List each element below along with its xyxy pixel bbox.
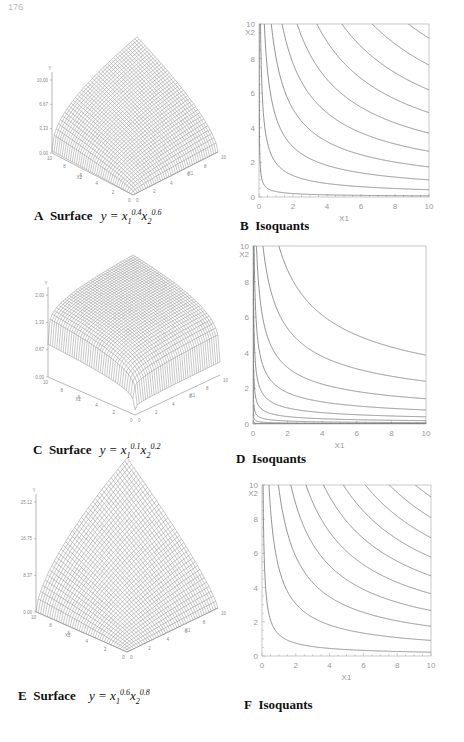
- svg-text:X1: X1: [190, 393, 196, 398]
- svg-text:10: 10: [221, 611, 227, 616]
- svg-text:6: 6: [361, 661, 366, 670]
- svg-text:10: 10: [221, 155, 227, 160]
- svg-text:X1: X1: [342, 673, 352, 682]
- svg-text:10: 10: [47, 156, 53, 161]
- caption-D: D Isoquants: [236, 451, 306, 467]
- svg-text:10: 10: [425, 202, 434, 211]
- isoquant-curve: [262, 0, 431, 594]
- surface-plot-E: 0.008.3716.7525.12Y00224466881010X1X2: [21, 458, 227, 660]
- svg-text:2: 2: [294, 661, 299, 670]
- svg-text:4: 4: [172, 402, 175, 407]
- svg-text:X2: X2: [65, 633, 71, 638]
- svg-text:10: 10: [31, 615, 37, 620]
- svg-text:0.67: 0.67: [35, 347, 44, 352]
- caption-E: E Surface y = x10.6x20.8: [18, 688, 150, 706]
- figure-canvas: 02468100246810X1X202468100246810X1X20246…: [0, 0, 464, 742]
- svg-text:2: 2: [285, 429, 290, 438]
- svg-text:4: 4: [327, 661, 332, 670]
- svg-text:2: 2: [113, 410, 116, 415]
- svg-text:0.00: 0.00: [35, 375, 44, 380]
- svg-text:8: 8: [395, 661, 400, 670]
- svg-text:X2: X2: [245, 28, 255, 37]
- svg-text:0: 0: [251, 429, 256, 438]
- caption-B: B Isoquants: [240, 218, 309, 234]
- svg-text:0: 0: [130, 655, 133, 660]
- surface-plot-C: 0.000.671.332.00Y00224466881010X1X2: [35, 255, 228, 423]
- svg-text:8: 8: [206, 386, 209, 391]
- isoquant-curve: [259, 0, 429, 90]
- isoquant-curve: [253, 103, 426, 417]
- svg-text:X1: X1: [339, 214, 349, 223]
- svg-text:0.00: 0.00: [39, 151, 48, 156]
- svg-text:1.33: 1.33: [35, 320, 44, 325]
- svg-text:4: 4: [320, 429, 325, 438]
- svg-text:X2: X2: [75, 397, 81, 402]
- svg-text:8: 8: [251, 55, 256, 64]
- svg-text:2: 2: [291, 202, 296, 211]
- svg-text:2: 2: [148, 646, 151, 651]
- svg-text:2: 2: [251, 158, 256, 167]
- svg-text:2.00: 2.00: [35, 293, 44, 298]
- svg-text:10: 10: [223, 378, 229, 383]
- equation-E: y = x10.6x20.8: [89, 688, 150, 703]
- svg-text:6: 6: [355, 429, 360, 438]
- svg-text:0: 0: [136, 198, 139, 203]
- svg-text:8: 8: [389, 429, 394, 438]
- svg-text:0: 0: [257, 202, 262, 211]
- svg-text:0: 0: [130, 418, 133, 423]
- svg-text:8: 8: [204, 164, 207, 169]
- svg-text:8.37: 8.37: [23, 573, 32, 578]
- svg-text:0: 0: [245, 420, 250, 429]
- svg-text:10.00: 10.00: [37, 78, 49, 83]
- isoquant-curve: [259, 0, 429, 151]
- svg-text:2: 2: [104, 647, 107, 652]
- isoquant-curve: [253, 275, 426, 420]
- svg-text:6: 6: [245, 313, 250, 322]
- isoquant-curve: [262, 0, 431, 626]
- svg-text:16.75: 16.75: [21, 536, 33, 541]
- svg-text:6.67: 6.67: [39, 102, 48, 107]
- svg-text:3.33: 3.33: [39, 126, 48, 131]
- isoquant-plot-B: 02468100246810X1X2: [245, 0, 434, 223]
- svg-text:0: 0: [260, 661, 265, 670]
- svg-text:8: 8: [393, 202, 398, 211]
- svg-text:4: 4: [86, 639, 89, 644]
- svg-text:2: 2: [155, 410, 158, 415]
- svg-text:10: 10: [43, 380, 49, 385]
- svg-text:8: 8: [60, 388, 63, 393]
- isoquant-curve: [253, 0, 426, 410]
- equation-A: y = x10.4x20.6: [101, 208, 162, 223]
- svg-text:8: 8: [203, 620, 206, 625]
- svg-text:2: 2: [112, 190, 115, 195]
- svg-text:X2: X2: [76, 175, 82, 180]
- svg-text:8: 8: [245, 278, 250, 287]
- svg-text:X1: X1: [188, 171, 194, 176]
- svg-text:10: 10: [427, 661, 436, 670]
- svg-text:4: 4: [95, 403, 98, 408]
- svg-text:8: 8: [49, 623, 52, 628]
- isoquant-curve: [259, 0, 429, 167]
- caption-F: F Isoquants: [244, 697, 313, 713]
- isoquant-curve: [259, 0, 429, 133]
- isoquant-curve: [262, 0, 431, 518]
- surface-plot-A: 0.003.336.6710.00Y00224466881010X1X2: [37, 37, 227, 203]
- svg-text:Y: Y: [48, 66, 51, 71]
- svg-text:0: 0: [122, 655, 125, 660]
- isoquant-curve: [262, 0, 431, 557]
- svg-text:X1: X1: [185, 628, 191, 633]
- svg-text:2: 2: [153, 189, 156, 194]
- svg-text:0: 0: [254, 652, 259, 661]
- isoquant-plot-F: 02468100246810X1X2: [248, 0, 436, 682]
- svg-text:6: 6: [359, 202, 364, 211]
- svg-text:X2: X2: [248, 489, 258, 498]
- svg-text:4: 4: [251, 124, 256, 133]
- isoquant-curve: [253, 0, 426, 399]
- svg-text:4: 4: [254, 584, 259, 593]
- svg-text:X2: X2: [239, 250, 249, 259]
- isoquant-curve: [262, 0, 431, 611]
- svg-text:8: 8: [63, 164, 66, 169]
- svg-text:2: 2: [245, 384, 250, 393]
- svg-text:6: 6: [254, 549, 259, 558]
- svg-text:0: 0: [128, 198, 131, 203]
- svg-text:8: 8: [254, 515, 259, 524]
